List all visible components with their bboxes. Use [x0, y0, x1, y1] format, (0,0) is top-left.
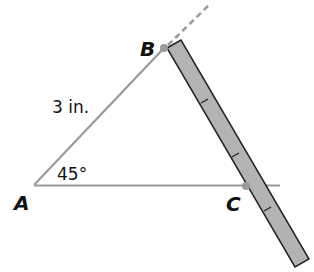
label-b: B [140, 37, 155, 61]
angle-a-measure-label: 45° [57, 164, 87, 184]
label-a: A [12, 191, 29, 215]
label-c: C [226, 192, 241, 216]
dashed-extension-line [168, 4, 210, 45]
triangle-construction-diagram: A B C 3 in. 45° [0, 0, 314, 272]
side-ab-length-label: 3 in. [52, 97, 89, 117]
point-c [242, 182, 250, 190]
point-b [160, 44, 168, 52]
ruler [167, 40, 309, 267]
